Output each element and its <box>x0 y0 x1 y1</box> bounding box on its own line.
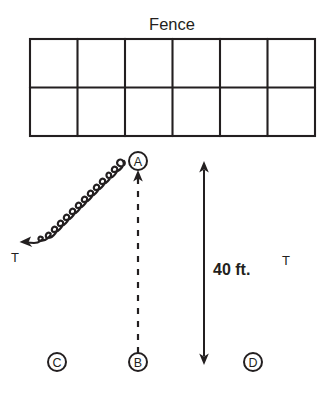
wavy-line <box>27 160 125 243</box>
fence-title: Fence <box>149 15 195 33</box>
marker-b: B <box>129 353 147 371</box>
marker-c: C <box>48 353 66 371</box>
marker-a: A <box>129 152 147 170</box>
marker-a-label: A <box>134 155 143 169</box>
dashed-path-b-to-a <box>133 170 143 353</box>
dimension-label: 40 ft. <box>213 261 250 278</box>
marker-d: D <box>244 353 262 371</box>
tension-label-right: T <box>282 253 290 268</box>
dimension-arrow-40ft <box>199 161 209 365</box>
tension-label-left: T <box>11 250 19 265</box>
marker-c-label: C <box>52 356 61 370</box>
fence-grid <box>30 39 315 136</box>
wavy-trajectory-arrow <box>20 160 125 247</box>
marker-b-label: B <box>134 356 142 370</box>
diagram-canvas: Fence T T 40 ft. A B <box>0 0 332 393</box>
physics-diagram: Fence T T 40 ft. A B <box>0 0 332 393</box>
marker-d-label: D <box>248 356 257 370</box>
